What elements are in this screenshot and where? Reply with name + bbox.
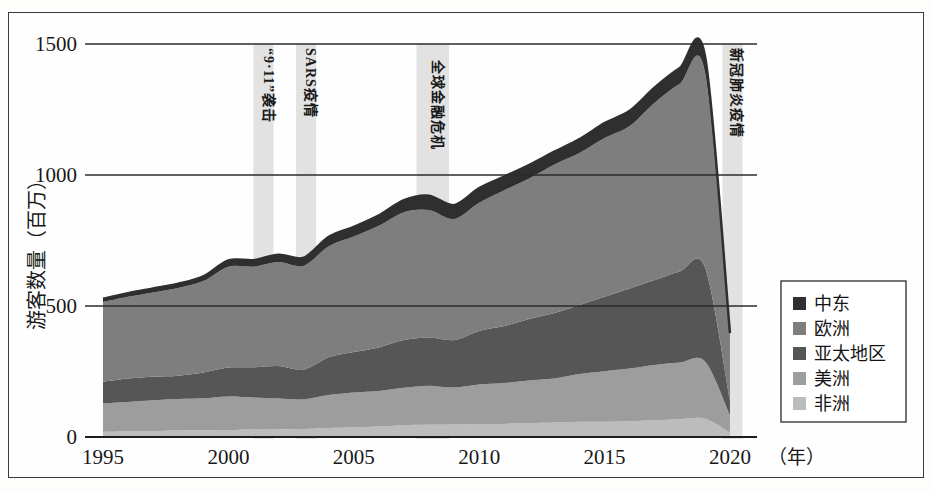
event-band-label: 全球金融危机 <box>430 59 446 150</box>
area-series-group <box>103 39 730 437</box>
y-axis-label: 游客数量（百万） <box>26 170 48 330</box>
event-band-label: “9·11”袭击 <box>261 48 277 123</box>
event-band-label: SARS疫情 <box>303 48 319 118</box>
legend-swatch-5 <box>793 397 806 410</box>
x-tick-label: 2015 <box>584 445 626 469</box>
legend-swatch-3 <box>793 347 806 360</box>
legend-swatch-4 <box>793 372 806 385</box>
legend-swatch-1 <box>793 297 806 310</box>
y-tick-label: 500 <box>46 294 78 318</box>
x-tick-label: 2010 <box>458 445 500 469</box>
legend-label-1: 中东 <box>814 294 850 314</box>
legend-label-4: 美洲 <box>814 369 850 389</box>
x-tick-label: 2005 <box>333 445 375 469</box>
stacked-area-chart: 050010001500 199520002005201020152020（年）… <box>0 0 934 492</box>
x-tick-label: 2020 <box>709 445 751 469</box>
figure-container: 050010001500 199520002005201020152020（年）… <box>0 0 934 492</box>
legend-label-2: 欧洲 <box>814 319 850 339</box>
legend: 中东欧洲亚太地区美洲非洲 <box>781 281 906 422</box>
y-axis-label-group: 游客数量（百万） <box>26 170 48 330</box>
legend-label-3: 亚太地区 <box>814 344 886 364</box>
legend-label-5: 非洲 <box>814 394 850 414</box>
x-tick-label: 1995 <box>82 445 124 469</box>
legend-swatch-2 <box>793 322 806 335</box>
x-tick-label-group: 199520002005201020152020（年） <box>82 445 825 469</box>
y-tick-label: 0 <box>67 425 78 449</box>
event-band-label: 新冠肺炎疫情 <box>729 48 745 138</box>
y-tick-label: 1500 <box>35 32 77 56</box>
chart-plot-area: 050010001500 199520002005201020152020（年）… <box>0 0 934 492</box>
x-tick-label: 2000 <box>207 445 249 469</box>
x-axis-unit-label: （年） <box>768 447 825 468</box>
